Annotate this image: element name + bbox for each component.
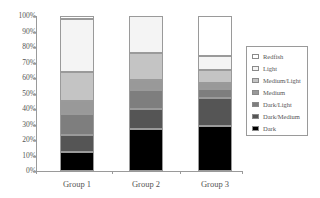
legend-item: Dark/Medium: [252, 111, 300, 121]
bar-segment-light: [198, 56, 232, 70]
bar-segment-dark-medium: [60, 135, 94, 152]
bar-segment-light: [129, 16, 163, 53]
x-tick-label: Group 1: [47, 179, 107, 189]
legend-item: Medium/Light: [252, 75, 301, 85]
bar-segment-dark-light: [129, 90, 163, 109]
x-tick-label: Group 2: [116, 179, 176, 189]
legend-label: Dark: [263, 125, 276, 132]
bar-segment-dark-light: [198, 89, 232, 98]
bar-segment-dark: [60, 152, 94, 171]
bar-segment-light: [60, 19, 94, 72]
stacked-bar-chart: 0%10%20%30%40%50%60%70%80%90%100% Group …: [0, 0, 320, 198]
bar-segment-medium-light: [198, 70, 232, 82]
bar-segment-redfish: [198, 16, 232, 56]
legend-swatch: [252, 126, 259, 131]
legend-swatch: [252, 78, 259, 83]
legend-label: Light: [263, 65, 277, 72]
legend: RedfishLightMedium/LightMediumDark/Light…: [246, 46, 308, 136]
bar-segment-dark-medium: [198, 98, 232, 126]
bar-segment-medium: [129, 80, 163, 91]
legend-label: Dark/Medium: [263, 113, 300, 120]
bar-segment-dark: [198, 126, 232, 171]
legend-swatch: [252, 114, 259, 119]
legend-label: Dark/Light: [263, 101, 292, 108]
legend-label: Medium/Light: [263, 77, 301, 84]
bar-segment-medium-light: [129, 53, 163, 79]
bar-group-1: [60, 16, 94, 171]
legend-item: Medium: [252, 87, 285, 97]
bar-segment-medium: [60, 101, 94, 113]
legend-swatch: [252, 54, 259, 59]
legend-swatch: [252, 90, 259, 95]
x-axis: [36, 171, 242, 172]
bar-segment-medium-light: [60, 72, 94, 101]
legend-item: Redfish: [252, 51, 283, 61]
x-tick: [242, 171, 243, 174]
bar-segment-dark: [129, 129, 163, 171]
bar-segment-dark-medium: [129, 109, 163, 129]
bar-group-3: [198, 16, 232, 171]
bar-segment-dark-light: [60, 114, 94, 136]
legend-label: Redfish: [263, 53, 283, 60]
bar-segment-medium: [198, 83, 232, 89]
legend-item: Dark/Light: [252, 99, 292, 109]
bar-segment-redfish: [60, 16, 94, 19]
y-axis: [36, 16, 37, 171]
legend-swatch: [252, 102, 259, 107]
bar-group-2: [129, 16, 163, 171]
legend-swatch: [252, 66, 259, 71]
legend-label: Medium: [263, 89, 285, 96]
legend-item: Light: [252, 63, 277, 73]
legend-item: Dark: [252, 123, 276, 133]
x-tick-label: Group 3: [185, 179, 245, 189]
